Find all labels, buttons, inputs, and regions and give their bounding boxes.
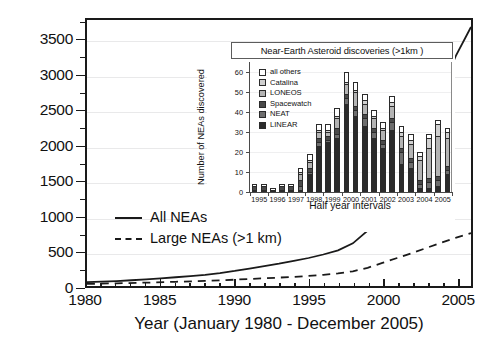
x-tick-minor	[443, 283, 445, 288]
y-tick-mark	[76, 252, 85, 253]
legend-swatch-icon	[259, 79, 266, 86]
inset-bar-segment	[399, 152, 405, 164]
inset-legend-label: Catalina	[270, 78, 298, 89]
inset-bar-segment	[344, 72, 350, 82]
x-tick-minor	[324, 283, 326, 288]
legend-line-dashed-icon	[115, 238, 142, 240]
x-tick-label: 1995	[292, 291, 325, 309]
x-tick-label: 2000	[367, 291, 400, 309]
inset-legend-item: Spacewatch	[259, 99, 311, 110]
inset-bar-segment	[399, 136, 405, 148]
x-tick-major	[85, 279, 87, 288]
inset-legend-item: all others	[259, 67, 311, 78]
x-tick-minor	[130, 283, 132, 288]
inset-bar-segment	[334, 118, 340, 128]
y-tick-label: 2000	[40, 137, 73, 155]
inset-x-tick	[452, 192, 453, 196]
y-tick-minor	[80, 57, 85, 58]
inset-bar	[270, 188, 276, 192]
inset-bar-segment	[426, 188, 432, 192]
inset-legend-item: LINEAR	[259, 120, 311, 131]
figure-nea-discoveries: Total number of known NEAs All NEAs Larg…	[0, 0, 496, 350]
y-tick-label: 1500	[40, 172, 73, 190]
inset-bar-segment	[307, 174, 313, 192]
main-y-axis-label: Total number of known NEAs	[0, 15, 4, 285]
x-tick-minor	[279, 283, 281, 288]
x-tick-major	[309, 279, 311, 288]
y-tick-minor	[80, 128, 85, 129]
y-tick-mark	[76, 39, 85, 40]
inset-bar	[344, 72, 350, 192]
inset-legend-label: LONEOS	[270, 88, 302, 99]
inset-bar-segment	[344, 104, 350, 192]
inset-bar-segment	[353, 116, 359, 192]
x-tick-minor	[249, 283, 251, 288]
y-tick-mark	[76, 75, 85, 76]
inset-y-tick	[246, 132, 250, 133]
inset-y-tick-label: 60	[235, 68, 243, 77]
inset-bar-segment	[334, 108, 340, 116]
inset-x-axis-label: Half year intervals	[249, 200, 451, 211]
x-tick-minor	[115, 283, 117, 288]
inset-bar-segment	[362, 104, 368, 114]
x-tick-major	[160, 279, 162, 288]
inset-bar	[279, 184, 285, 192]
inset-legend-item: LONEOS	[259, 88, 311, 99]
y-tick-minor	[80, 164, 85, 165]
y-tick-label: 3000	[40, 66, 73, 84]
main-x-axis-label: Year (January 1980 - December 2005)	[85, 314, 473, 334]
inset-bar	[435, 120, 441, 192]
legend-label-all-neas: All NEAs	[150, 207, 207, 228]
legend-swatch-icon	[259, 101, 266, 108]
y-tick-minor	[80, 235, 85, 236]
inset-legend-label: all others	[270, 67, 301, 78]
x-tick-label: 1985	[143, 291, 176, 309]
inset-legend-label: LINEAR	[270, 120, 297, 131]
inset-bar	[316, 124, 322, 192]
x-tick-minor	[398, 283, 400, 288]
y-tick-label: 3500	[40, 30, 73, 48]
inset-bar	[261, 184, 267, 192]
inset-y-axis-label: Number of NEAs discovered	[196, 63, 206, 191]
legend-line-solid-icon	[115, 217, 142, 219]
inset-bar-segment	[316, 146, 322, 192]
inset-y-tick-label: 40	[235, 108, 243, 117]
inset-bar	[371, 110, 377, 192]
inset-bar	[252, 184, 258, 192]
inset-title: Near-Earth Asteroid discoveries (>1km )	[231, 42, 453, 59]
inset-bar-segment	[362, 118, 368, 126]
x-tick-label: 2005	[441, 291, 474, 309]
x-tick-minor	[264, 283, 266, 288]
x-tick-minor	[428, 283, 430, 288]
inset-legend: all othersCatalinaLONEOSSpacewatchNEATLI…	[259, 67, 311, 131]
inset-bar-segment	[389, 106, 395, 118]
inset-bar-segment	[380, 148, 386, 192]
inset-legend-label: NEAT	[270, 109, 290, 120]
x-tick-major	[458, 279, 460, 288]
inset-legend-label: Spacewatch	[270, 99, 311, 110]
inset-bar	[298, 168, 304, 192]
inset-bar-segment	[288, 190, 294, 192]
inset-y-tick-label: 0	[239, 188, 243, 197]
inset-bar-segment	[371, 138, 377, 192]
inset-y-tick-label: 20	[235, 148, 243, 157]
inset-bar	[362, 94, 368, 192]
inset-bar-segment	[344, 84, 350, 94]
inset-bar	[417, 152, 423, 192]
x-tick-minor	[100, 283, 102, 288]
legend-swatch-icon	[259, 69, 266, 76]
inset-bar	[288, 184, 294, 192]
x-tick-major	[234, 279, 236, 288]
inset-bar-segment	[371, 118, 377, 128]
inset-y-tick-label: 50	[235, 88, 243, 97]
inset-bar-segment	[408, 168, 414, 192]
inset-bar-segment	[435, 136, 441, 176]
inset-bar-segment	[270, 190, 276, 192]
inset-bar-segment	[408, 144, 414, 158]
x-tick-minor	[294, 283, 296, 288]
x-tick-label: 1980	[68, 291, 101, 309]
inset-y-tick-label: 30	[235, 128, 243, 137]
inset-bar-segment	[353, 92, 359, 106]
y-tick-minor	[80, 199, 85, 200]
inset-bar-segment	[380, 130, 386, 140]
